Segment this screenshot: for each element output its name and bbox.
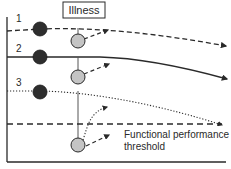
recovery-path-1 [84, 30, 108, 39]
recovery-path-3-dotted [83, 107, 107, 140]
trajectory-label-1: 1 [16, 13, 22, 24]
threshold-label-line2: threshold [124, 141, 165, 152]
illness-marker-1 [71, 34, 85, 48]
illness-label: Illness [68, 4, 100, 16]
baseline-marker-1 [33, 22, 47, 36]
trajectory-label-2: 2 [16, 43, 22, 54]
recovery-path-3-dashed [86, 135, 109, 146]
baseline-marker-3 [33, 85, 47, 99]
trajectory-label-3: 3 [16, 77, 22, 88]
illness-marker-2 [71, 70, 85, 84]
baseline-marker-2 [33, 50, 47, 64]
illness-marker-3 [71, 138, 85, 152]
functional-performance-diagram: Illness 1 2 3 Functional performance thr… [0, 0, 231, 169]
threshold-label-line1: Functional performance [124, 129, 229, 140]
recovery-path-2 [84, 64, 109, 74]
